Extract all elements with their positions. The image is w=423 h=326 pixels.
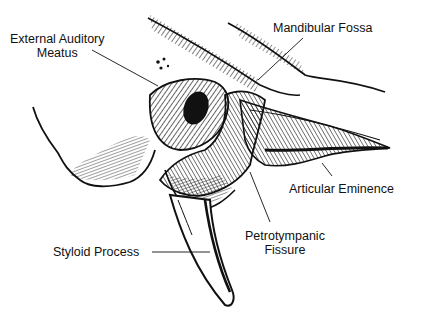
- styloid-process-shape: [170, 195, 234, 306]
- mastoid-contour: [33, 107, 155, 186]
- external-auditory-meatus-shape: [150, 58, 229, 151]
- leader-petrotympanic-fissure: [250, 172, 270, 222]
- label-mandibular-fossa: Mandibular Fossa: [273, 21, 372, 35]
- label-styloid-process: Styloid Process: [53, 245, 139, 259]
- label-external-auditory-meatus: External Auditory Meatus: [10, 32, 105, 60]
- anatomy-diagram: External Auditory Meatus Mandibular Foss…: [0, 0, 423, 326]
- label-petrotympanic-fissure: Petrotympanic Fissure: [245, 229, 325, 257]
- label-articular-eminence: Articular Eminence: [289, 182, 394, 196]
- leader-articular-eminence: [322, 163, 332, 176]
